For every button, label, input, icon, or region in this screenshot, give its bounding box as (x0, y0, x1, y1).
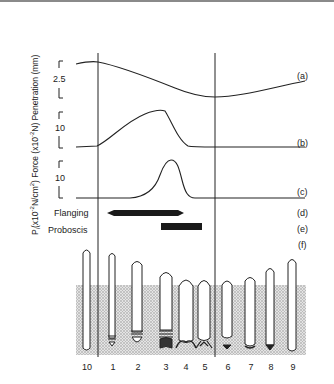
scale-label-a: 2.5 (53, 74, 66, 84)
tube-stage-3 (160, 273, 172, 331)
trace-label-f: (f) (298, 240, 307, 250)
tube-stage-9 (288, 260, 296, 352)
tube-stage-8 (266, 269, 274, 346)
stage-number: 9 (290, 362, 295, 372)
tube-stage-6 (222, 281, 232, 338)
trace-b-force (76, 110, 305, 147)
flanging-label: Flanging (54, 208, 89, 218)
trace-a-penetration (76, 62, 305, 97)
tube-stage-5 (198, 281, 210, 341)
stage-number: 2 (135, 362, 140, 372)
stage-number: 1 (110, 362, 115, 372)
figure-canvas: 2.5 10 10 Pi(x10-2N/cm2) Force (x10-2N) … (0, 0, 334, 384)
flanging-bar (107, 210, 184, 216)
trace-label-d: (d) (297, 208, 308, 218)
svg-text:Pi(x10-2N/cm2) Force (x10-2N): Pi(x10-2N/cm2) Force (x10-2N) Penetratio… (29, 55, 41, 235)
trace-c-pi (76, 160, 305, 198)
proboscis-bar (161, 223, 202, 230)
scale-label-b: 10 (55, 123, 65, 133)
stage-number: 7 (248, 362, 253, 372)
stage-number: 8 (268, 362, 273, 372)
tube-stage-10 (83, 250, 90, 350)
y-axis-label: Pi(x10-2N/cm2) Force (x10-2N) Penetratio… (29, 55, 41, 235)
trace-label-a: (a) (297, 71, 308, 81)
stage-number: 4 (183, 362, 188, 372)
stage-number: 3 (163, 362, 168, 372)
stage-number: 5 (202, 362, 207, 372)
trace-label-e: (e) (297, 224, 308, 234)
trace-label-c: (c) (297, 187, 308, 197)
proboscis-label: Proboscis (48, 225, 88, 235)
stage-number: 6 (225, 362, 230, 372)
tube-stage-7 (245, 278, 255, 347)
stage-number: 10 (82, 362, 92, 372)
tube-stage-4 (179, 280, 193, 343)
tube-stage-2 (132, 262, 142, 333)
tube-stage-3-proboscis (160, 338, 172, 349)
trace-label-b: (b) (297, 138, 308, 148)
tube-stage-1 (109, 254, 115, 339)
scale-label-c: 10 (55, 173, 65, 183)
